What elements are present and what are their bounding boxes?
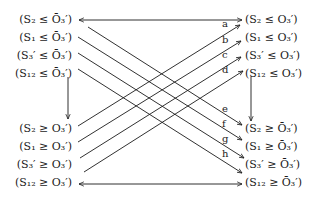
node-left-top-2: (S₁ ≤ Ō₃′) [19, 31, 72, 44]
node-right-top-4: (S₁₂ ≤ O₃′) [245, 67, 302, 80]
node-right-bottom-2: (S₁ ≥ Ō₃′) [245, 140, 298, 153]
arrow-d [84, 71, 243, 172]
implication-diagram: (S₂ ≤ Ō₃′) (S₁ ≤ Ō₃′) (S₃′ ≤ Ō₃′) (S₁₂ ≤… [0, 0, 314, 197]
edge-label-a: a [222, 18, 228, 29]
node-right-bottom-4: (S₁₂ ≥ Ō₃′) [245, 176, 302, 189]
node-left-bottom-4: (S₁₂ ≥ O₃′) [15, 176, 72, 189]
node-left-top-3: (S₃′ ≤ Ō₃′) [17, 49, 72, 62]
node-right-bottom-1: (S₂ ≥ Ō₃′) [245, 122, 298, 135]
edge-label-f: f [222, 118, 226, 129]
edge-label-g: g [222, 133, 228, 144]
edge-label-e: e [222, 103, 228, 114]
arrow-h [78, 69, 242, 173]
edge-label-c: c [222, 49, 228, 60]
edge-label-h: h [222, 148, 228, 159]
node-right-bottom-3: (S₃′ ≥ Ō₃′) [245, 158, 300, 171]
node-right-top-3: (S₃′ ≤ O₃′) [245, 49, 300, 62]
node-left-top-1: (S₂ ≤ Ō₃′) [19, 13, 72, 26]
node-right-top-1: (S₂ ≤ O₃′) [245, 13, 298, 26]
node-right-top-2: (S₁ ≤ O₃′) [245, 31, 298, 44]
node-left-bottom-3: (S₃′ ≥ O₃′) [17, 158, 72, 171]
node-left-top-4: (S₁₂ ≤ Ō₃′) [15, 67, 72, 80]
arrow-c [80, 57, 241, 158]
edge-label-b: b [222, 34, 228, 45]
node-left-bottom-2: (S₁ ≥ O₃′) [19, 140, 72, 153]
arrow-e [88, 27, 242, 125]
arrow-g [78, 53, 244, 158]
node-left-bottom-1: (S₂ ≥ O₃′) [19, 122, 72, 135]
arrow-f [78, 37, 242, 140]
edge-label-d: d [222, 64, 228, 75]
arrow-a [78, 25, 240, 126]
arrow-b [78, 41, 241, 142]
